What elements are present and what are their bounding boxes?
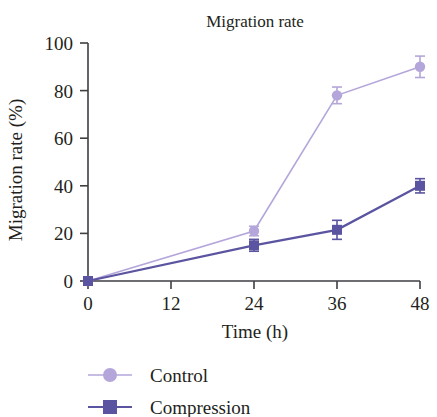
data-point-compression-48h [415,179,425,193]
legend-marker-circle [103,368,117,382]
x-tick-label: 48 [411,293,430,314]
x-axis-ticks: 012243648 [83,281,429,314]
marker-circle [332,90,342,100]
x-axis-title: Time (h) [222,321,288,343]
data-point-control-24h [249,226,259,236]
x-tick-label: 0 [83,293,93,314]
migration-rate-chart-figure: Migration rate Migration rate (%) Time (… [0,0,437,417]
data-series-layer [83,56,425,286]
marker-circle [415,62,425,72]
marker-square [332,225,342,235]
marker-square [83,276,93,286]
legend-item-compression[interactable]: Compression [88,397,251,417]
x-tick-label: 36 [328,293,347,314]
y-tick-label: 100 [45,33,74,54]
data-point-compression-36h [332,220,342,239]
y-tick-label: 0 [64,271,74,292]
y-axis-title: Migration rate (%) [5,99,27,241]
marker-circle [249,226,259,236]
x-tick-label: 12 [162,293,181,314]
y-tick-label: 60 [54,128,73,149]
legend-item-control[interactable]: Control [88,365,208,386]
chart-legend: ControlCompression [88,365,251,417]
x-tick-label: 24 [245,293,265,314]
y-axis-ticks: 020406080100 [45,33,89,292]
data-point-compression-24h [249,239,259,251]
legend-label: Compression [150,397,251,417]
y-tick-label: 80 [54,81,73,102]
y-tick-label: 20 [54,223,73,244]
legend-label: Control [150,365,208,386]
marker-square [415,181,425,191]
marker-square [249,240,259,250]
chart-svg: Migration rate Migration rate (%) Time (… [0,0,437,417]
y-tick-label: 40 [54,176,73,197]
data-point-control-48h [415,56,425,77]
legend-marker-square [103,400,117,414]
chart-title: Migration rate [206,12,304,31]
data-point-compression-0h [83,276,93,286]
